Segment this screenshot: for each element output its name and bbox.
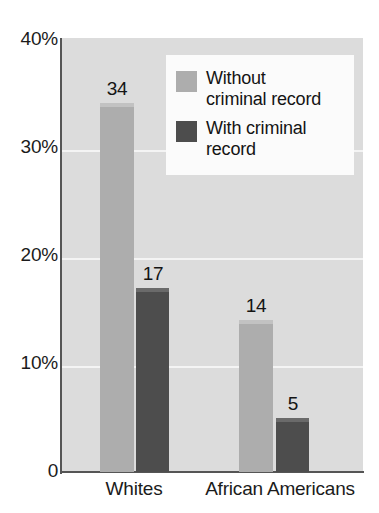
- category-label-whites: Whites: [84, 478, 184, 500]
- y-tick-0: 0: [2, 460, 58, 482]
- y-axis-tick-labels: 40% 30% 20% 10% 0: [0, 0, 58, 513]
- bar-value-whites-without-record: 34: [97, 78, 137, 100]
- bar-african-americans-without-record: [239, 320, 273, 472]
- category-label-african-americans: African Americans: [185, 478, 375, 500]
- bar-body: [136, 292, 169, 472]
- bar-value-african-americans-without-record: 14: [236, 295, 276, 317]
- legend-entry-without-criminal-record: Without criminal record: [176, 68, 321, 110]
- chart-figure: 40% 30% 20% 10% 0 34 17 14 5 Whites Afri…: [0, 0, 379, 513]
- legend-label-without-criminal-record: Without criminal record: [206, 68, 321, 110]
- legend-swatch-dark-icon: [176, 121, 197, 142]
- legend: Without criminal record With criminal re…: [166, 55, 354, 175]
- bar-body: [276, 422, 309, 472]
- legend-label-with-criminal-record: With criminal record: [206, 118, 306, 160]
- bar-whites-with-record: [136, 288, 169, 472]
- bar-body: [100, 107, 134, 472]
- y-tick-10: 10%: [2, 352, 58, 374]
- y-tick-40: 40%: [2, 28, 58, 50]
- legend-swatch-light-icon: [176, 71, 197, 92]
- y-tick-30: 30%: [2, 136, 58, 158]
- bar-whites-without-record: [100, 103, 134, 472]
- y-tick-20: 20%: [2, 244, 58, 266]
- bar-body: [239, 324, 273, 472]
- bar-african-americans-with-record: [276, 418, 309, 472]
- bar-value-whites-with-record: 17: [133, 263, 173, 285]
- y-axis-line: [60, 38, 62, 474]
- legend-entry-with-criminal-record: With criminal record: [176, 118, 306, 160]
- bar-value-african-americans-with-record: 5: [273, 393, 313, 415]
